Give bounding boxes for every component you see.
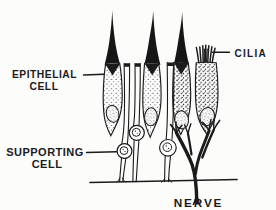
supporting-cell-label-line1: SUPPORTING xyxy=(6,146,84,158)
nerve-fibers xyxy=(171,119,220,205)
supporting-label-leader-line xyxy=(87,152,117,153)
epithelial-cell-1 xyxy=(103,11,122,136)
diagram-canvas: EPITHELIAL CELL SUPPORTING CELL CILIA NE… xyxy=(0,0,276,210)
cell-dark-cap xyxy=(167,62,174,66)
cell-spire xyxy=(144,11,160,65)
cell-nucleus xyxy=(132,128,140,136)
cilia-label: CILIA xyxy=(235,48,268,59)
epithelial-label-leader-line xyxy=(84,74,105,75)
epithelial-cell-2 xyxy=(143,11,161,137)
cell-nucleus xyxy=(163,143,172,152)
epithelial-cell-label-line2: CELL xyxy=(30,81,59,92)
cilia-tuft xyxy=(196,45,215,62)
supporting-cell-3 xyxy=(160,62,177,182)
cell-dark-cap xyxy=(124,63,130,66)
cell-spire xyxy=(105,11,121,65)
nerve-label: NERVE xyxy=(174,196,223,210)
epithelial-cell-label-line1: EPITHELIAL xyxy=(12,69,77,80)
histology-diagram: EPITHELIAL CELL SUPPORTING CELL CILIA NE… xyxy=(0,0,276,210)
cell-dark-cap xyxy=(135,63,140,66)
epithelial-cell-3 xyxy=(173,12,191,135)
cell-spire xyxy=(174,12,189,64)
cell-nucleus xyxy=(120,147,128,155)
supporting-cell-2 xyxy=(129,63,144,182)
supporting-cell-label-line2: CELL xyxy=(32,158,63,170)
